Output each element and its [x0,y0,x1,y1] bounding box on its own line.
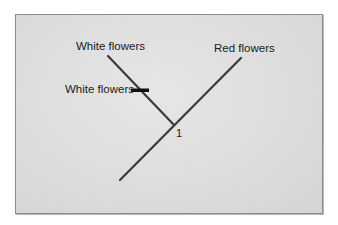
node-label: 1 [176,127,182,139]
main-branch [120,58,241,180]
character-mark-label: White flowers [65,83,134,95]
taxon-label-right: Red flowers [214,42,275,54]
taxon-label-left: White flowers [76,40,145,52]
cladogram-tree [0,0,338,225]
